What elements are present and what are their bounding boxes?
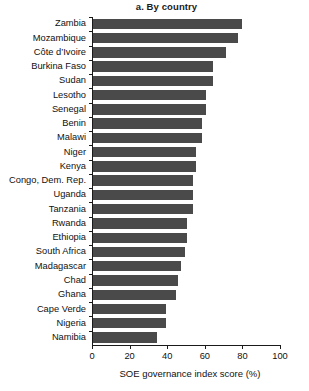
category-label: Benin xyxy=(62,117,86,129)
y-axis-tick xyxy=(89,88,92,89)
y-axis-tick xyxy=(89,245,92,246)
x-axis-tick xyxy=(130,345,131,349)
category-label: Malawi xyxy=(57,131,86,143)
bar xyxy=(93,33,238,43)
category-label: Lesotho xyxy=(53,89,86,101)
category-label: Chad xyxy=(64,274,86,286)
y-axis-tick xyxy=(89,202,92,203)
category-label: South Africa xyxy=(36,245,86,257)
y-axis-tick xyxy=(89,288,92,289)
category-label: Kenya xyxy=(60,160,86,172)
y-axis-tick xyxy=(89,331,92,332)
bar xyxy=(93,261,181,271)
bar xyxy=(93,19,242,29)
bar xyxy=(93,118,202,128)
category-label: Zambia xyxy=(55,17,86,29)
y-axis-tick xyxy=(89,46,92,47)
bar xyxy=(93,61,213,71)
bar xyxy=(93,47,226,57)
bar xyxy=(93,247,185,257)
bar xyxy=(93,304,166,314)
x-axis-tick-label: 100 xyxy=(272,351,288,361)
y-axis-tick xyxy=(89,103,92,104)
bar xyxy=(93,233,187,243)
x-axis-tick xyxy=(205,345,206,349)
y-axis-tick xyxy=(89,188,92,189)
category-label: Ghana xyxy=(58,288,86,300)
category-label: Tanzania xyxy=(49,203,86,215)
y-axis-tick xyxy=(89,302,92,303)
x-axis-tick-label: 0 xyxy=(89,351,94,361)
category-label: Senegal xyxy=(52,103,86,115)
category-label: Uganda xyxy=(53,188,86,200)
category-label: Namibia xyxy=(52,331,86,343)
category-label: Rwanda xyxy=(52,217,86,229)
category-label: Sudan xyxy=(59,74,86,86)
category-label: Mozambique xyxy=(33,32,86,44)
chart-title: a. By country xyxy=(0,1,309,12)
y-axis-tick xyxy=(89,117,92,118)
x-axis-tick-label: 40 xyxy=(162,351,172,361)
bar xyxy=(93,175,193,185)
y-axis-tick xyxy=(89,259,92,260)
x-axis-tick xyxy=(242,345,243,349)
x-axis-line xyxy=(92,345,281,346)
x-axis-tick xyxy=(167,345,168,349)
bar xyxy=(93,161,196,171)
bar xyxy=(93,133,202,143)
y-axis-tick xyxy=(89,231,92,232)
category-label: Madagascar xyxy=(35,260,86,272)
bar xyxy=(93,90,206,100)
bar xyxy=(93,76,213,86)
bar xyxy=(93,147,196,157)
y-axis-tick xyxy=(89,316,92,317)
x-axis-tick-label: 80 xyxy=(237,351,247,361)
plot-area: ZambiaMozambiqueCôte d’IvoireBurkina Fas… xyxy=(92,17,280,345)
x-axis-tick xyxy=(280,345,281,349)
category-label: Burkina Faso xyxy=(31,60,86,72)
y-axis-tick xyxy=(89,274,92,275)
bar xyxy=(93,332,157,342)
x-axis-tick-label: 60 xyxy=(200,351,210,361)
category-label: Nigeria xyxy=(57,317,86,329)
y-axis-tick xyxy=(89,217,92,218)
y-axis-tick xyxy=(89,31,92,32)
category-label: Niger xyxy=(64,146,86,158)
category-label: Côte d’Ivoire xyxy=(34,46,86,58)
bar xyxy=(93,190,193,200)
bar xyxy=(93,204,193,214)
category-label: Ethiopia xyxy=(52,231,86,243)
category-label: Congo, Dem. Rep. xyxy=(9,174,86,186)
bar xyxy=(93,318,166,328)
y-axis-tick xyxy=(89,131,92,132)
y-axis-tick xyxy=(89,145,92,146)
x-axis-title: SOE governance index score (%) xyxy=(96,368,284,379)
bar-chart-figure: a. By country ZambiaMozambiqueCôte d’Ivo… xyxy=(0,0,309,391)
y-axis-tick xyxy=(89,60,92,61)
category-label: Cape Verde xyxy=(37,303,86,315)
y-axis-tick xyxy=(89,160,92,161)
x-axis-tick xyxy=(92,345,93,349)
x-axis-tick-label: 20 xyxy=(124,351,134,361)
bar xyxy=(93,275,178,285)
bar xyxy=(93,290,176,300)
y-axis-tick xyxy=(89,74,92,75)
y-axis-tick xyxy=(89,17,92,18)
bar xyxy=(93,218,187,228)
bar xyxy=(93,104,206,114)
y-axis-tick xyxy=(89,174,92,175)
